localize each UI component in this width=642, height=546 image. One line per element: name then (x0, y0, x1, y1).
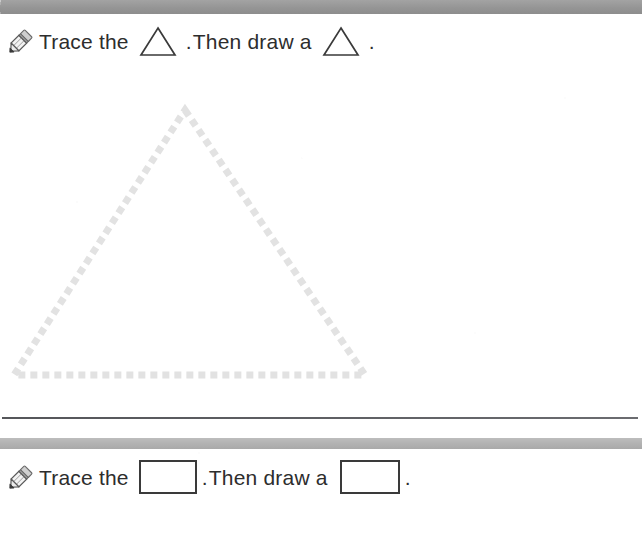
instruction-mid-text: Then draw a (193, 31, 312, 52)
inline-triangle-icon (138, 25, 178, 58)
instruction-mid-text: Then draw a (209, 467, 328, 488)
instruction-period-2: . (405, 467, 411, 488)
instruction-period-2: . (369, 31, 375, 52)
instruction-row-rectangle: Trace the . Then draw a . (4, 460, 411, 494)
pencil-icon (4, 460, 38, 494)
section-rule (2, 417, 638, 419)
instruction-period-1: . (202, 467, 208, 488)
inline-rectangle-icon (139, 460, 197, 494)
worksheet-page: Trace the . Then draw a . (0, 0, 642, 546)
instruction-row-triangle: Trace the . Then draw a . (4, 24, 375, 58)
inline-rectangle-icon-2 (340, 460, 400, 494)
page-header-band (0, 0, 642, 14)
section-band (0, 438, 642, 449)
pencil-icon (4, 24, 38, 58)
instruction-lead-text: Trace the (39, 467, 129, 488)
inline-triangle-icon-2 (321, 25, 361, 58)
trace-triangle-dashed[interactable] (0, 96, 390, 388)
instruction-period-1: . (186, 31, 192, 52)
instruction-lead-text: Trace the (39, 31, 129, 52)
